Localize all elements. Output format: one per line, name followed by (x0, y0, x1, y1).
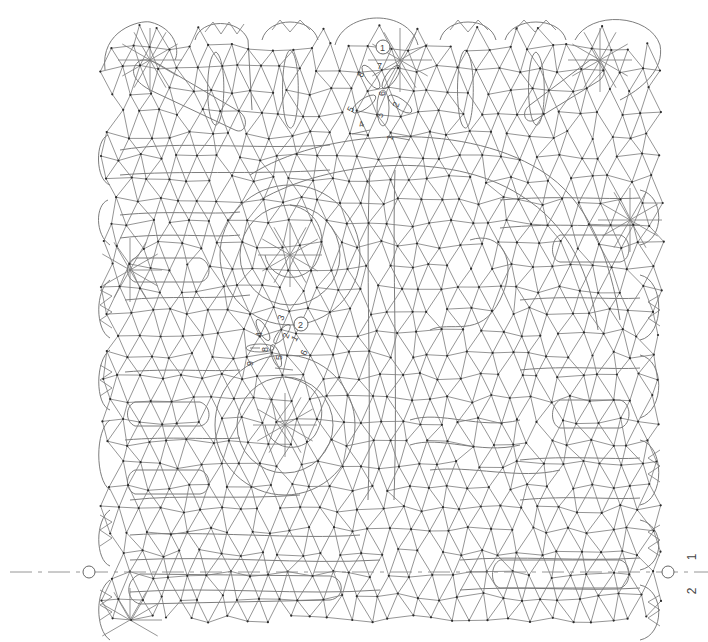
center-line-label-2: 2 (685, 588, 699, 595)
svg-text:2: 2 (390, 101, 401, 109)
svg-text:3: 3 (275, 314, 286, 322)
start-marker-2: 2 3 2 1 4 5 6 8 9 (245, 314, 310, 370)
svg-text:9: 9 (245, 361, 255, 366)
svg-text:6: 6 (377, 91, 387, 96)
tape-bands (120, 137, 640, 592)
svg-text:7: 7 (377, 61, 382, 71)
start-marker-1: 1 1 2 3 4 5 6 7 8 (345, 40, 414, 142)
svg-text:4: 4 (254, 332, 264, 337)
start-marker-2-label: 2 (298, 320, 303, 330)
svg-text:3: 3 (375, 113, 385, 118)
center-line (10, 566, 708, 578)
svg-text:4: 4 (357, 119, 365, 130)
svg-text:8: 8 (260, 347, 270, 352)
left-scallops (98, 135, 112, 640)
start-marker-1-label: 1 (380, 43, 385, 53)
svg-text:1: 1 (289, 334, 300, 343)
center-line-label-1: 1 (685, 554, 699, 561)
svg-text:5: 5 (274, 355, 284, 360)
lace-pricking-diagram: 1 1 2 3 4 5 6 7 8 2 3 2 1 4 5 6 8 9 (0, 0, 708, 642)
